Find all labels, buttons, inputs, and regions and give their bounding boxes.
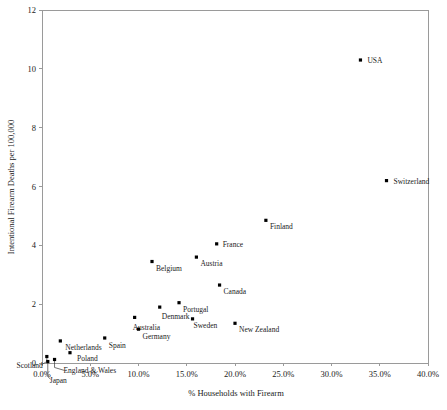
y-tick-label: 10 (28, 64, 37, 74)
point-marker (46, 360, 49, 363)
point-label: Sweden (194, 321, 218, 330)
y-tick-label: 8 (32, 123, 36, 133)
point-label: France (223, 240, 244, 249)
y-axis-title: Intentional Firearm Deaths per 100,000 (6, 120, 16, 254)
data-point: Austria (195, 256, 223, 269)
point-label: Canada (224, 287, 247, 296)
point-marker (103, 336, 106, 339)
x-tick-label: 20.0% (224, 369, 246, 379)
scatter-chart: 0.0%5.0%10.0%15.0%20.0%25.0%30.0%35.0%40… (0, 0, 447, 410)
point-label: New Zealand (239, 325, 279, 334)
point-marker (68, 351, 71, 354)
point-label: Poland (77, 354, 98, 363)
data-points-layer: USASwitzerlandFinlandFranceAustriaCanada… (17, 56, 430, 385)
data-point: Australia (133, 316, 161, 333)
point-label: Switzerland (394, 177, 430, 186)
point-marker (264, 219, 267, 222)
data-point: Sweden (191, 317, 218, 330)
data-point: New Zealand (233, 322, 279, 335)
point-marker (133, 316, 136, 319)
x-tick-label: 30.0% (321, 369, 343, 379)
point-marker (150, 260, 153, 263)
point-label: USA (367, 56, 383, 65)
point-marker (59, 339, 62, 342)
point-marker (177, 301, 180, 304)
point-marker (53, 358, 56, 361)
y-tick-label: 2 (32, 299, 36, 309)
point-marker (195, 256, 198, 259)
point-label: Belgium (156, 264, 182, 273)
data-point: Switzerland (385, 177, 430, 186)
point-marker (45, 355, 48, 358)
point-label: Australia (133, 323, 161, 332)
point-marker (158, 306, 161, 309)
data-point: Finland (264, 219, 293, 232)
x-tick-label: 15.0% (176, 369, 198, 379)
point-label: England & Wales (64, 366, 117, 375)
point-marker (233, 322, 236, 325)
y-tick-label: 12 (28, 5, 37, 15)
point-marker (359, 58, 362, 61)
data-point: Canada (218, 283, 247, 296)
data-point: USA (359, 56, 383, 65)
point-marker (385, 179, 388, 182)
point-label: Japan (50, 376, 67, 385)
chart-canvas: 0.0%5.0%10.0%15.0%20.0%25.0%30.0%35.0%40… (0, 0, 447, 410)
data-point: Netherlands (59, 339, 102, 352)
data-point: Spain (103, 336, 126, 350)
x-tick-label: 40.0% (417, 369, 439, 379)
point-label: Austria (200, 259, 223, 268)
x-tick-label: 10.0% (128, 369, 150, 379)
data-point: Poland (68, 351, 98, 363)
y-axis-ticks: 024681012 (28, 5, 43, 368)
point-marker (215, 242, 218, 245)
point-label: Spain (109, 341, 126, 350)
point-marker (218, 283, 221, 286)
point-label: Netherlands (65, 343, 101, 352)
x-tick-label: 25.0% (272, 369, 294, 379)
y-tick-label: 4 (32, 240, 37, 250)
point-marker (137, 328, 140, 331)
y-tick-label: 6 (32, 182, 36, 192)
data-point: France (215, 240, 244, 249)
x-tick-label: 35.0% (369, 369, 391, 379)
point-label: Scotland (17, 361, 43, 370)
x-axis-title: % Households with Firearm (188, 388, 284, 398)
x-tick-label: 0.0% (33, 369, 51, 379)
point-label: Finland (270, 222, 293, 231)
point-label: Denmark (162, 312, 190, 321)
point-label: Germany (143, 332, 171, 341)
data-point: Belgium (150, 260, 182, 273)
